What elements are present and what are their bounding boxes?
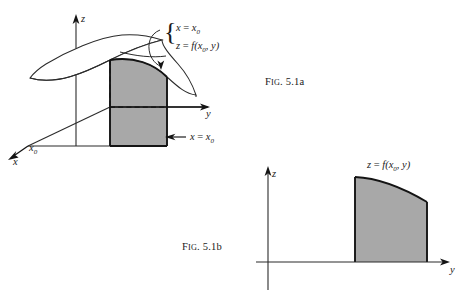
plane-callout-label: x = x0 bbox=[190, 131, 214, 145]
base-diagonal-edge bbox=[28, 107, 110, 146]
x0-tick-label: x0 bbox=[29, 142, 37, 156]
figure-b-graphics bbox=[256, 166, 450, 290]
y-axis-label-a: y bbox=[206, 108, 211, 119]
z-axis-label-a: z bbox=[81, 13, 85, 24]
plane-equation-line-1: x = x0 bbox=[176, 21, 219, 39]
cross-section-curve-label: z = f(x0, y) bbox=[367, 159, 410, 173]
shaded-cross-section bbox=[355, 177, 427, 262]
shaded-plane-x0 bbox=[110, 59, 167, 146]
x-axis-line-a bbox=[15, 146, 28, 155]
x-axis-label-a: x bbox=[13, 156, 18, 167]
plane-equations-callout: x = x0 z = f(x0, y) bbox=[176, 21, 219, 57]
y-axis-label-b: y bbox=[450, 264, 455, 275]
figure-a-caption: FIG. 5.1a bbox=[265, 76, 304, 87]
brace-glyph: { bbox=[164, 19, 176, 45]
plane-equation-line-2: z = f(x0, y) bbox=[176, 39, 219, 57]
figure-b-caption: FIG. 5.1b bbox=[182, 241, 222, 252]
z-axis-label-b: z bbox=[272, 168, 276, 179]
figure-sheet: x y z x0 { x = x0 z = f(x0, y) x = x0 FI… bbox=[0, 0, 470, 299]
figure-vector-graphics bbox=[0, 0, 470, 299]
